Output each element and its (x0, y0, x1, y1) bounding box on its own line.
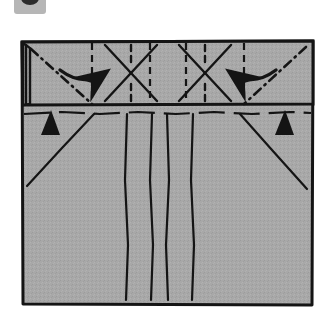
diagram-page (0, 0, 334, 324)
origami-diagram (0, 0, 334, 324)
